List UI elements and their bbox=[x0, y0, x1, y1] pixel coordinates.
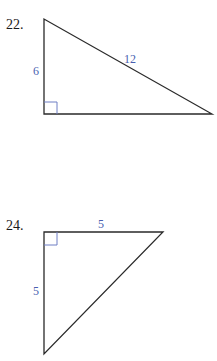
leg-label: 6 bbox=[33, 64, 39, 78]
right-triangle bbox=[44, 232, 163, 354]
right-angle-marker bbox=[44, 232, 57, 245]
problem-number: 24. bbox=[6, 218, 24, 233]
problem-24: 24. 5 5 bbox=[6, 217, 163, 354]
left-leg-label: 5 bbox=[33, 284, 39, 298]
problem-22: 22. 6 12 bbox=[6, 17, 212, 114]
problem-number: 22. bbox=[6, 17, 24, 32]
hypotenuse-label: 12 bbox=[124, 52, 136, 66]
right-triangle bbox=[44, 19, 212, 114]
triangle-diagrams: 22. 6 12 24. 5 5 bbox=[0, 0, 217, 361]
right-angle-marker bbox=[44, 102, 57, 114]
top-leg-label: 5 bbox=[98, 217, 104, 231]
